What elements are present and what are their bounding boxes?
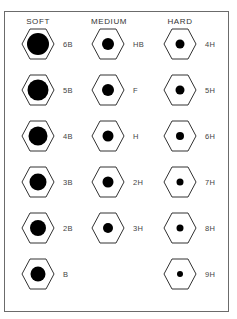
grade-label: 3B xyxy=(63,178,73,187)
pencil-grade-f: F xyxy=(91,73,171,109)
hexagon-pencil-icon xyxy=(21,73,55,107)
hexagon-pencil-icon xyxy=(91,73,125,107)
hexagon-pencil-icon xyxy=(163,27,197,61)
hexagon-pencil-icon xyxy=(163,257,197,291)
graphite-core-icon xyxy=(28,80,49,101)
graphite-core-icon xyxy=(176,86,185,95)
hexagon-pencil-icon xyxy=(91,211,125,245)
header-medium: MEDIUM xyxy=(91,17,127,26)
grade-label: 4H xyxy=(205,40,215,49)
grade-label: 6H xyxy=(205,132,215,141)
grade-label: HB xyxy=(133,40,144,49)
hexagon-pencil-icon xyxy=(91,27,125,61)
grade-label: 5B xyxy=(63,86,73,95)
pencil-grade-5b: 5B xyxy=(21,73,101,109)
graphite-core-icon xyxy=(27,33,49,55)
grade-label: F xyxy=(133,86,138,95)
hexagon-pencil-icon xyxy=(91,165,125,199)
grade-label: 4B xyxy=(63,132,73,141)
pencil-grade-8h: 8H xyxy=(163,211,237,247)
grade-label: 2H xyxy=(133,178,143,187)
grade-label: H xyxy=(133,132,139,141)
hexagon-pencil-icon xyxy=(91,119,125,153)
pencil-grade-3b: 3B xyxy=(21,165,101,201)
grade-label: 9H xyxy=(205,270,215,279)
graphite-core-icon xyxy=(30,220,46,236)
grade-label: 6B xyxy=(63,40,73,49)
pencil-grade-b: B xyxy=(21,257,101,293)
hexagon-pencil-icon xyxy=(21,257,55,291)
graphite-core-icon xyxy=(29,127,48,146)
pencil-grade-5h: 5H xyxy=(163,73,237,109)
hexagon-pencil-icon xyxy=(21,165,55,199)
pencil-grade-6b: 6B xyxy=(21,27,101,63)
grade-label: 5H xyxy=(205,86,215,95)
graphite-core-icon xyxy=(103,131,114,142)
pencil-grade-3h: 3H xyxy=(91,211,171,247)
grade-label: 2B xyxy=(63,224,73,233)
grade-label: 3H xyxy=(133,224,143,233)
pencil-grade-4b: 4B xyxy=(21,119,101,155)
pencil-grade-4h: 4H xyxy=(163,27,237,63)
hexagon-pencil-icon xyxy=(163,119,197,153)
graphite-core-icon xyxy=(102,84,114,96)
graphite-core-icon xyxy=(177,179,184,186)
pencil-grade-h: H xyxy=(91,119,171,155)
hexagon-pencil-icon xyxy=(163,165,197,199)
hexagon-pencil-icon xyxy=(21,27,55,61)
graphite-core-icon xyxy=(103,177,114,188)
graphite-core-icon xyxy=(177,271,183,277)
pencil-grade-2h: 2H xyxy=(91,165,171,201)
hexagon-pencil-icon xyxy=(21,119,55,153)
graphite-core-icon xyxy=(102,38,114,50)
hexagon-pencil-icon xyxy=(163,73,197,107)
graphite-core-icon xyxy=(176,40,185,49)
grade-label: 7H xyxy=(205,178,215,187)
pencil-grade-9h: 9H xyxy=(163,257,237,293)
graphite-core-icon xyxy=(103,223,113,233)
pencil-grade-hb: HB xyxy=(91,27,171,63)
pencil-grade-6h: 6H xyxy=(163,119,237,155)
header-hard: HARD xyxy=(167,17,192,26)
pencil-grade-7h: 7H xyxy=(163,165,237,201)
graphite-core-icon xyxy=(176,132,184,140)
graphite-core-icon xyxy=(177,225,184,232)
hexagon-pencil-icon xyxy=(163,211,197,245)
graphite-core-icon xyxy=(30,174,47,191)
graphite-core-icon xyxy=(31,267,46,282)
grade-label: 8H xyxy=(205,224,215,233)
grade-label: B xyxy=(63,270,68,279)
pencil-grade-2b: 2B xyxy=(21,211,101,247)
hexagon-pencil-icon xyxy=(21,211,55,245)
header-soft: SOFT xyxy=(26,17,50,26)
